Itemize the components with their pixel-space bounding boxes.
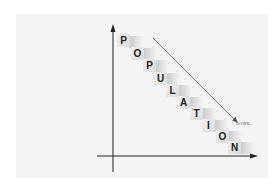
x-axis-arrowhead-icon: [250, 154, 258, 159]
axes-and-arrow: [0, 0, 279, 185]
y-axis-arrowhead-icon: [111, 24, 116, 32]
letter-tile: P: [143, 59, 156, 72]
letter-tile: A: [177, 96, 190, 109]
down-label: DOWN...: [236, 121, 253, 126]
letter-tile: N: [228, 141, 241, 154]
letter-tile: P: [117, 34, 130, 47]
letter-tile: I: [202, 119, 215, 132]
